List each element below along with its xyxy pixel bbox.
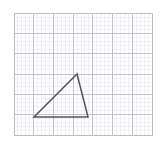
figure-canvas: [0, 0, 166, 147]
figure-background: [0, 0, 166, 147]
grid-figure-svg: [0, 0, 166, 147]
